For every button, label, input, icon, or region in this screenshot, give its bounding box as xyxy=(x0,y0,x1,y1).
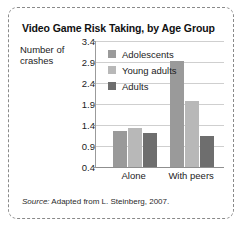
source-text: Adapted from L. Steinberg, 2007. xyxy=(51,197,169,206)
bar-young-adults-alone xyxy=(128,128,142,167)
bar-adults-alone xyxy=(143,133,157,167)
x-tick-label-with-peers: With peers xyxy=(168,170,213,181)
legend-label: Adults xyxy=(122,81,148,92)
bar-adolescents-alone xyxy=(113,131,127,167)
legend-swatch-icon xyxy=(108,50,116,58)
y-tick-label: 0.4 xyxy=(73,162,95,173)
y-tick-label: 2.4 xyxy=(73,78,95,89)
legend-swatch-icon xyxy=(108,66,116,74)
legend-swatch-icon xyxy=(108,82,116,90)
bar-adults-with-peers xyxy=(200,136,214,168)
legend-item-young-adults: Young adults xyxy=(108,63,177,77)
y-tick-label: 0.9 xyxy=(73,141,95,152)
figure-card: Video Game Risk Taking, by Age Group Num… xyxy=(8,7,234,219)
legend-item-adults: Adults xyxy=(108,79,177,93)
y-tick-label: 1.4 xyxy=(73,120,95,131)
y-tick-label: 1.9 xyxy=(73,99,95,110)
x-tick-label-alone: Alone xyxy=(122,170,146,181)
y-tick-label: 3.4 xyxy=(73,36,95,47)
legend-label: Young adults xyxy=(122,65,177,76)
y-axis-title-line2: crashes xyxy=(20,55,53,66)
y-axis-title-line1: Number of xyxy=(20,44,64,55)
plot-wrapper: 0.40.91.41.92.42.93.4 AloneWith peers Ad… xyxy=(68,41,224,183)
bar-young-adults-with-peers xyxy=(185,101,199,167)
y-tick-label: 2.9 xyxy=(73,57,95,68)
source-note: Source: Adapted from L. Steinberg, 2007. xyxy=(22,197,169,206)
legend-label: Adolescents xyxy=(122,49,174,60)
source-label: Source: xyxy=(22,197,50,206)
chart-title: Video Game Risk Taking, by Age Group xyxy=(22,22,222,34)
legend: AdolescentsYoung adultsAdults xyxy=(108,47,177,95)
legend-item-adolescents: Adolescents xyxy=(108,47,177,61)
